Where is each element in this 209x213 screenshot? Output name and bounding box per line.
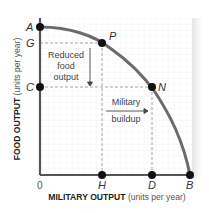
- ppf-chart: A G C P N H D B 0 Reduced food output Mi…: [0, 0, 209, 213]
- label-H: H: [98, 179, 106, 191]
- label-N: N: [158, 81, 166, 93]
- annotation-food-line1: Reduced: [48, 50, 84, 60]
- annotation-food-line3: output: [53, 72, 79, 82]
- point-H-dot: [98, 171, 106, 179]
- point-A-dot: [36, 23, 44, 31]
- x-axis-title: MILITARY OUTPUT (units per year): [48, 192, 186, 202]
- label-A: A: [25, 21, 33, 33]
- annotation-mil-line1: Military: [112, 97, 141, 107]
- label-B: B: [186, 179, 193, 191]
- point-B-dot: [186, 171, 194, 179]
- point-N-dot: [148, 83, 156, 91]
- label-P: P: [109, 30, 117, 42]
- annotation-food-line2: food: [57, 61, 75, 71]
- point-P-dot: [98, 39, 106, 47]
- annotation-mil-line2: buildup: [111, 114, 140, 124]
- label-C: C: [26, 81, 34, 93]
- point-C-dot: [36, 83, 44, 91]
- label-G: G: [26, 37, 35, 49]
- point-D-dot: [148, 171, 156, 179]
- y-axis-title: FOOD OUTPUT (units per year): [12, 38, 22, 161]
- label-D: D: [148, 179, 156, 191]
- label-origin: 0: [37, 180, 43, 191]
